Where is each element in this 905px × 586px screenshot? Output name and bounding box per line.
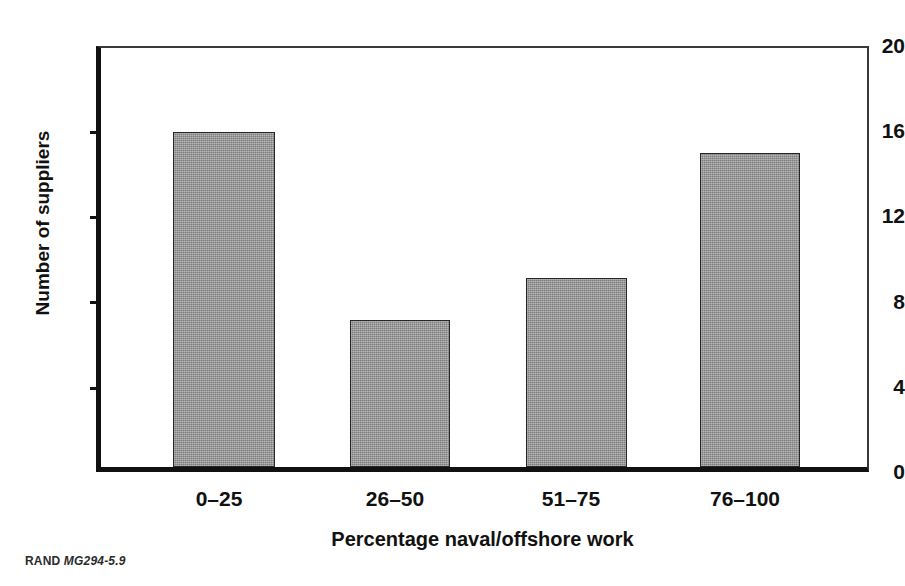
- bar-76-100: [700, 153, 800, 467]
- x-axis-title: Percentage naval/offshore work: [96, 528, 869, 551]
- bar-chart-figure: Number of suppliers 20 16 12 8 4 0 0–25 …: [0, 0, 905, 586]
- bar-26-50: [350, 320, 450, 467]
- y-axis-title: Number of suppliers: [32, 73, 54, 373]
- figure-credit-org: RAND: [25, 554, 60, 568]
- x-tick-label-26-50: 26–50: [325, 487, 465, 511]
- figure-credit-id: MG294-5.9: [64, 554, 126, 568]
- plot-area: [96, 46, 869, 472]
- bar-0-25: [173, 132, 275, 467]
- x-tick-label-76-100: 76–100: [675, 487, 815, 511]
- bars-layer: [101, 48, 867, 467]
- figure-credit: RAND MG294-5.9: [25, 554, 126, 568]
- x-tick-label-51-75: 51–75: [501, 487, 641, 511]
- bar-51-75: [526, 278, 627, 467]
- x-tick-label-0-25: 0–25: [149, 487, 289, 511]
